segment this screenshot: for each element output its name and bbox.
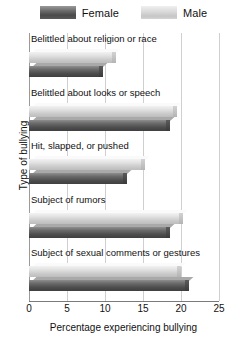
bar-female xyxy=(29,224,170,238)
bar-group: Subject of sexual comments or gestures xyxy=(29,247,219,301)
bar-group: Belittled about religion or race xyxy=(29,33,219,87)
bar-group: Belittled about looks or speech xyxy=(29,87,219,141)
x-axis-line xyxy=(29,301,219,302)
category-label: Subject of sexual comments or gestures xyxy=(31,247,200,259)
y-axis-title: Type of bullying xyxy=(18,81,29,231)
bar-female xyxy=(29,277,189,291)
category-label: Belittled about religion or race xyxy=(31,33,157,45)
x-tick-label-10: 10 xyxy=(99,303,110,314)
chart-legend: Female Male xyxy=(0,6,247,19)
x-tick-label-5: 5 xyxy=(64,303,70,314)
bar-group: Hit, slapped, or pushed xyxy=(29,140,219,194)
bar-male xyxy=(29,263,181,277)
x-tick-label-0: 0 xyxy=(26,303,32,314)
x-tick-label-20: 20 xyxy=(175,303,186,314)
x-tick-label-15: 15 xyxy=(137,303,148,314)
bar-male xyxy=(29,210,183,224)
bar-male xyxy=(29,103,177,117)
male-swatch-icon xyxy=(141,6,177,19)
bar-male xyxy=(29,156,145,170)
x-tick-label-25: 25 xyxy=(213,303,224,314)
legend-entry-female: Female xyxy=(40,6,119,19)
bar-male xyxy=(29,49,116,63)
bar-group: Subject of rumors xyxy=(29,194,219,248)
legend-entry-male: Male xyxy=(141,6,207,19)
x-axis-ticks: 0510152025 xyxy=(29,303,219,317)
female-swatch-icon xyxy=(40,6,76,19)
bar-female xyxy=(29,63,103,77)
category-label: Hit, slapped, or pushed xyxy=(31,140,129,152)
legend-label-male: Male xyxy=(183,7,207,19)
gridline-25 xyxy=(219,33,220,301)
bar-female xyxy=(29,117,170,131)
bar-groups: Belittled about religion or raceBelittle… xyxy=(29,33,219,301)
bar-female xyxy=(29,170,127,184)
plot-area: Belittled about religion or raceBelittle… xyxy=(29,33,219,301)
category-label: Subject of rumors xyxy=(31,194,105,206)
legend-label-female: Female xyxy=(82,7,119,19)
x-axis-title: Percentage experiencing bullying xyxy=(0,322,247,333)
category-label: Belittled about looks or speech xyxy=(31,87,160,99)
bullying-bar-chart: Female Male Type of bullying Belittled a… xyxy=(0,0,247,346)
